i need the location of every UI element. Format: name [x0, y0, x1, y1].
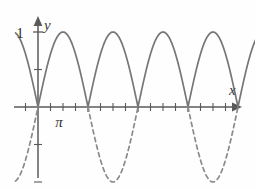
curve-abs-sin: [16, 32, 256, 107]
x-axis-group: [14, 103, 242, 112]
curve-sin-negative-arc-2: [188, 107, 238, 182]
y-axis-label: y: [42, 17, 51, 33]
y-axis-group: [34, 16, 43, 178]
figure-container: y x 1 π: [0, 0, 255, 189]
y-value-label-one: 1: [16, 25, 24, 41]
x-axis-label: x: [228, 82, 236, 98]
y-axis-arrow-icon: [34, 16, 43, 26]
x-value-label-pi: π: [55, 114, 63, 130]
plot-canvas: y x 1 π: [0, 0, 255, 189]
curve-sin-negative-arc-1: [88, 107, 138, 182]
